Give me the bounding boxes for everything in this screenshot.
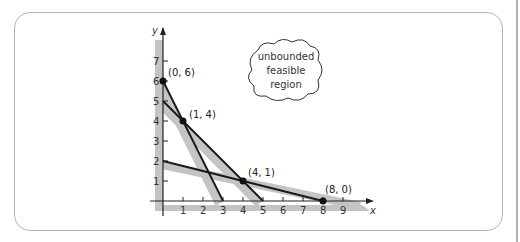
svg-text:9: 9 <box>340 205 346 216</box>
svg-text:4: 4 <box>153 116 159 127</box>
x-tick-labels: 1 2 3 4 5 6 7 8 9 <box>180 205 346 216</box>
feasible-region-chart: 1 2 3 4 5 6 7 8 9 1 2 3 4 5 6 7 y x (0, … <box>0 0 520 242</box>
cloud-callout: unbounded feasible region <box>248 39 322 100</box>
svg-text:unbounded: unbounded <box>258 51 315 62</box>
x-axis-label: x <box>369 205 376 216</box>
svg-text:3: 3 <box>220 205 226 216</box>
svg-text:1: 1 <box>180 205 186 216</box>
label-0-6: (0, 6) <box>168 67 195 78</box>
svg-text:6: 6 <box>280 205 286 216</box>
svg-text:7: 7 <box>300 205 306 216</box>
y-axis-arrow-icon <box>160 27 166 35</box>
svg-text:8: 8 <box>320 205 326 216</box>
label-1-4: (1, 4) <box>189 109 216 120</box>
point-4-1 <box>240 178 247 185</box>
svg-text:7: 7 <box>153 56 159 67</box>
point-1-4 <box>180 118 187 125</box>
y-axis-label: y <box>151 25 159 36</box>
label-4-1: (4, 1) <box>248 167 275 178</box>
line-2x-plus-y-6 <box>163 81 223 201</box>
svg-text:feasible: feasible <box>266 65 305 76</box>
svg-text:2: 2 <box>200 205 206 216</box>
point-8-0 <box>320 198 327 205</box>
svg-text:region: region <box>270 79 302 90</box>
x-axis-arrow-icon <box>366 198 374 204</box>
svg-text:5: 5 <box>153 96 159 107</box>
svg-text:3: 3 <box>153 136 159 147</box>
point-0-6 <box>160 78 167 85</box>
svg-text:5: 5 <box>260 205 266 216</box>
label-8-0: (8, 0) <box>325 184 352 195</box>
svg-text:4: 4 <box>240 205 246 216</box>
band-2x-plus-y-6 <box>160 84 219 204</box>
svg-text:6: 6 <box>153 76 159 87</box>
svg-text:2: 2 <box>153 156 159 167</box>
svg-text:1: 1 <box>153 176 159 187</box>
